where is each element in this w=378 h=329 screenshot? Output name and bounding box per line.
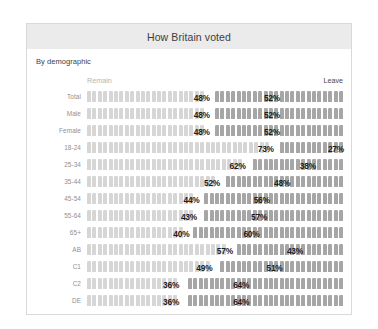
row-label: C1 [27, 263, 81, 270]
chart-subtitle: By demographic [36, 57, 91, 66]
chart-row: DE36%64% [27, 294, 351, 311]
row-label: AB [27, 246, 81, 253]
row-bar: 44%56% [87, 193, 343, 206]
page-title: How Britain voted [147, 31, 231, 43]
value-label-remain: 62% [230, 161, 246, 171]
row-bar: 36%64% [87, 278, 343, 291]
chart-card: How Britain voted By demographic Remain … [26, 23, 352, 315]
row-label: 55-64 [27, 212, 81, 219]
bar-segment-leave [197, 210, 343, 223]
row-label: 45-54 [27, 195, 81, 202]
chart-row: 25-3462%38% [27, 158, 351, 175]
value-label-leave: 27% [328, 144, 344, 154]
value-label-leave: 51% [266, 263, 282, 273]
row-bar: 48%52% [87, 91, 343, 104]
value-label-leave: 48% [274, 178, 290, 188]
row-label: DE [27, 297, 81, 304]
value-label-leave: 52% [264, 127, 280, 137]
chart-row: AB57%43% [27, 243, 351, 260]
chart-row: 18-2473%27% [27, 141, 351, 158]
chart-row: Male48%52% [27, 107, 351, 124]
row-bar: 57%43% [87, 244, 343, 257]
chart-row: C149%51% [27, 260, 351, 277]
bar-segment-remain [87, 108, 210, 121]
chart-row: 65+40%60% [27, 226, 351, 243]
bar-segment-remain [87, 176, 220, 189]
row-label: 65+ [27, 229, 81, 236]
value-label-remain: 48% [194, 110, 210, 120]
bar-segment-remain [87, 91, 210, 104]
value-label-remain: 57% [217, 246, 233, 256]
row-bar: 62%38% [87, 159, 343, 172]
bar-segment-remain [87, 142, 274, 155]
row-bar: 49%51% [87, 261, 343, 274]
legend-item-leave: Leave [323, 76, 343, 85]
value-label-remain: 48% [194, 127, 210, 137]
row-bar: 73%27% [87, 142, 343, 155]
bar-segment-remain [87, 244, 233, 257]
row-bar: 36%64% [87, 295, 343, 308]
chart-rows: Total48%52%Male48%52%Female48%52%18-2473… [27, 90, 351, 311]
chart-row: C236%64% [27, 277, 351, 294]
row-bar: 43%57% [87, 210, 343, 223]
value-label-leave: 60% [243, 229, 259, 239]
row-label: C2 [27, 280, 81, 287]
value-label-leave: 52% [264, 93, 280, 103]
row-bar: 48%52% [87, 108, 343, 121]
value-label-remain: 49% [196, 263, 212, 273]
value-label-remain: 44% [183, 195, 199, 205]
bar-segment-leave [179, 295, 343, 308]
legend: Remain Leave [27, 76, 351, 86]
row-label: Female [27, 127, 81, 134]
row-label: 35-44 [27, 178, 81, 185]
value-label-remain: 73% [258, 144, 274, 154]
bar-segment-leave [179, 278, 343, 291]
page-root: How Britain voted By demographic Remain … [0, 0, 378, 329]
value-label-leave: 43% [287, 246, 303, 256]
row-bar: 48%52% [87, 125, 343, 138]
bar-segment-remain [87, 261, 212, 274]
row-bar: 52%48% [87, 176, 343, 189]
value-label-leave: 64% [233, 297, 249, 307]
row-label: 25-34 [27, 161, 81, 168]
chart-row: Female48%52% [27, 124, 351, 141]
value-label-leave: 38% [300, 161, 316, 171]
value-label-remain: 43% [181, 212, 197, 222]
chart-row: 35-4452%48% [27, 175, 351, 192]
value-label-remain: 40% [173, 229, 189, 239]
chart-row: 55-6443%57% [27, 209, 351, 226]
bar-segment-leave [246, 159, 343, 172]
chart-row: 45-5444%56% [27, 192, 351, 209]
value-label-leave: 56% [254, 195, 270, 205]
value-label-remain: 36% [163, 297, 179, 307]
value-label-remain: 52% [204, 178, 220, 188]
chart-title-band: How Britain voted [27, 24, 351, 49]
value-label-leave: 52% [264, 110, 280, 120]
row-bar: 40%60% [87, 227, 343, 240]
value-label-leave: 64% [233, 280, 249, 290]
legend-item-remain: Remain [87, 76, 112, 85]
value-label-remain: 36% [163, 280, 179, 290]
row-label: 18-24 [27, 144, 81, 151]
row-label: Male [27, 110, 81, 117]
bar-segment-remain [87, 159, 246, 172]
value-label-remain: 48% [194, 93, 210, 103]
chart-row: Total48%52% [27, 90, 351, 107]
bar-segment-leave [200, 193, 343, 206]
row-label: Total [27, 93, 81, 100]
bar-segment-leave [189, 227, 343, 240]
bar-segment-remain [87, 125, 210, 138]
value-label-leave: 57% [251, 212, 267, 222]
